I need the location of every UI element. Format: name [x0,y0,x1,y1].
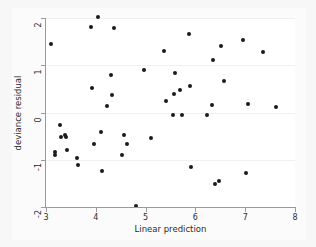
data-point [188,84,192,88]
data-point [274,105,278,109]
data-point [122,133,126,137]
data-point [219,44,223,48]
x-axis-line [45,207,296,208]
plot-region [46,18,295,207]
data-point [110,93,114,97]
data-point [89,25,93,29]
data-point [222,79,226,83]
x-tick-mark [46,208,47,212]
data-point [125,142,129,146]
gridline-y [46,18,295,19]
data-point [172,92,176,96]
y-tick-label: 1 [35,65,43,79]
data-point [173,71,177,75]
gridline-y [46,65,295,66]
data-point [180,113,184,117]
y-tick-label: -1 [35,160,43,174]
data-point [64,135,68,139]
x-axis-title: Linear prediction [46,224,295,234]
data-point [109,73,113,77]
data-point [241,38,245,42]
x-tick-label: 3 [39,213,53,222]
x-tick-label: 5 [139,213,153,222]
data-point [171,113,175,117]
y-tick-label: 2 [35,18,43,32]
data-point [189,165,193,169]
data-point [53,153,57,157]
data-point [142,68,146,72]
y-tick-label: 0 [35,113,43,127]
data-point [210,103,214,107]
x-tick-mark [195,208,196,212]
y-axis-line [45,18,46,207]
data-point [149,136,153,140]
data-point [105,104,109,108]
data-point [205,113,209,117]
x-tick-mark [146,208,147,212]
data-point [217,179,221,183]
data-point [187,32,191,36]
data-point [112,26,116,30]
data-point [261,50,265,54]
x-tick-mark [96,208,97,212]
data-point [246,102,250,106]
data-point [213,182,217,186]
x-tick-label: 8 [288,213,302,222]
data-point [65,148,69,152]
data-point [211,58,215,62]
x-tick-mark [245,208,246,212]
x-tick-label: 6 [188,213,202,222]
x-tick-label: 7 [238,213,252,222]
data-point [99,130,103,134]
data-point [178,88,182,92]
data-point [162,49,166,53]
data-point [120,153,124,157]
gridline-y [46,160,295,161]
data-point [49,42,53,46]
data-point [164,99,168,103]
x-tick-mark [295,208,296,212]
data-point [96,15,100,19]
data-point [100,169,104,173]
scatter-plot-figure: 210-1-2 345678 deviance residual Linear … [0,0,316,247]
data-point [92,142,96,146]
y-axis-title-text: deviance residual [13,75,23,150]
data-point [58,123,62,127]
data-point [90,86,94,90]
x-tick-label: 4 [89,213,103,222]
data-point [244,171,248,175]
data-point [76,163,80,167]
y-axis-title: deviance residual [12,18,24,207]
